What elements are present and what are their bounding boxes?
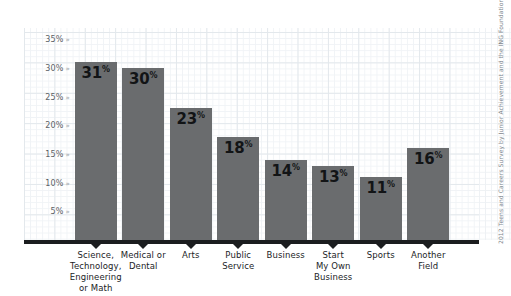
y-axis-tick-label: 10% xyxy=(45,178,63,187)
bar-value-label: 11% xyxy=(360,181,402,196)
bar-chart: 35%»30%»25%»20%»15%»10%»5%» 31%30%23%18%… xyxy=(0,0,511,296)
bar-value-label: 30% xyxy=(122,72,164,87)
y-axis-tick-label: 30% xyxy=(45,64,63,73)
y-axis-tick-label: 15% xyxy=(45,150,63,159)
chevron-right-icon: » xyxy=(66,36,70,44)
axis-tick-marker xyxy=(138,244,148,249)
bar-value-label: 23% xyxy=(170,112,212,127)
percent-sign: % xyxy=(244,140,252,149)
chevron-right-icon: » xyxy=(66,122,70,130)
axis-tick-marker xyxy=(233,244,243,249)
bar-value-number: 11 xyxy=(367,179,387,197)
axis-tick-marker xyxy=(376,244,386,249)
y-axis-tick: 30%» xyxy=(24,64,70,73)
bar-value-label: 18% xyxy=(217,141,259,156)
percent-sign: % xyxy=(102,65,110,74)
category-label-line: Another xyxy=(392,250,464,261)
bar-value-number: 14 xyxy=(272,162,292,180)
y-axis-tick: 5%» xyxy=(24,207,70,216)
category-label-line: or Math xyxy=(60,283,132,294)
x-axis-category-labels: Science,Technology,Engineeringor MathMed… xyxy=(72,250,452,296)
axis-tick-marker xyxy=(186,244,196,249)
axis-tick-marker xyxy=(91,244,101,249)
bar-value-number: 13 xyxy=(319,168,339,186)
category-label-line: Engineering xyxy=(60,272,132,283)
chevron-right-icon: » xyxy=(66,151,70,159)
bar[interactable] xyxy=(122,68,164,240)
axis-tick-marker xyxy=(423,244,433,249)
bar-value-label: 16% xyxy=(407,152,449,167)
category-label-line: Field xyxy=(392,261,464,272)
category-label: AnotherField xyxy=(392,250,464,272)
bar-group: 30% xyxy=(122,68,164,240)
source-credit: 2012 Teens and Careers Survey by Junior … xyxy=(497,4,509,244)
y-axis-tick: 15%» xyxy=(24,150,70,159)
category-label-line: Service xyxy=(202,261,274,272)
percent-sign: % xyxy=(387,180,395,189)
chevron-right-icon: » xyxy=(66,93,70,101)
percent-sign: % xyxy=(292,163,300,172)
bar-group: 31% xyxy=(75,62,117,240)
bar-group: 13% xyxy=(312,166,354,240)
category-label-line: My Own xyxy=(297,261,369,272)
bar-value-label: 14% xyxy=(265,164,307,179)
bar-value-label: 31% xyxy=(75,66,117,81)
y-axis-tick-label: 35% xyxy=(45,35,63,44)
y-axis-tick-label: 25% xyxy=(45,92,63,101)
axis-tick-marker xyxy=(281,244,291,249)
bar[interactable] xyxy=(75,62,117,240)
chevron-right-icon: » xyxy=(66,179,70,187)
y-axis-tick-label: 5% xyxy=(50,207,63,216)
bar-group: 18% xyxy=(217,137,259,240)
bar-value-number: 30 xyxy=(129,70,149,88)
percent-sign: % xyxy=(434,151,442,160)
y-axis-tick: 25%» xyxy=(24,92,70,101)
percent-sign: % xyxy=(197,111,205,120)
y-axis-tick-label: 20% xyxy=(45,121,63,130)
bar-value-number: 31 xyxy=(82,64,102,82)
category-label-line: Dental xyxy=(107,261,179,272)
bar-value-number: 16 xyxy=(414,150,434,168)
y-axis: 35%»30%»25%»20%»15%»10%»5%» xyxy=(24,28,72,240)
bar-group: 16% xyxy=(407,148,449,240)
axis-tick-marker xyxy=(328,244,338,249)
bar-group: 11% xyxy=(360,177,402,240)
bar-group: 14% xyxy=(265,160,307,240)
bar-group: 23% xyxy=(170,108,212,240)
chevron-right-icon: » xyxy=(66,65,70,73)
y-axis-tick: 35%» xyxy=(24,35,70,44)
y-axis-tick: 20%» xyxy=(24,121,70,130)
category-label-line: Business xyxy=(297,272,369,283)
bar-value-number: 23 xyxy=(177,110,197,128)
plot-area: 31%30%23%18%14%13%11%16% xyxy=(72,28,452,240)
percent-sign: % xyxy=(149,71,157,80)
y-axis-tick: 10%» xyxy=(24,178,70,187)
chevron-right-icon: » xyxy=(66,208,70,216)
bar-value-label: 13% xyxy=(312,170,354,185)
percent-sign: % xyxy=(339,169,347,178)
bar-value-number: 18 xyxy=(224,139,244,157)
